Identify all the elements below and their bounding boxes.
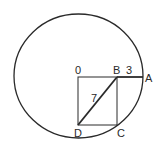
label-ba-length: 3 xyxy=(126,64,132,76)
label-c: C xyxy=(117,127,125,139)
label-a: A xyxy=(145,72,153,84)
label-bd-length: 7 xyxy=(91,92,97,104)
geometry-diagram: 0 B 3 A 7 D C xyxy=(0,0,161,154)
label-o: 0 xyxy=(75,64,81,76)
label-b: B xyxy=(113,64,120,76)
label-d: D xyxy=(74,127,82,139)
segment-bd xyxy=(78,77,117,125)
